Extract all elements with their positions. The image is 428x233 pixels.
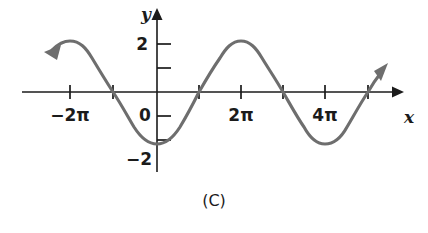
x-tick-label-4pi: 4π (312, 105, 337, 125)
y-axis-arrowhead-icon (152, 8, 163, 20)
curve-left-arrowhead-icon (44, 45, 61, 60)
y-axis-label: y (140, 4, 152, 24)
x-axis-arrowhead-icon (392, 87, 404, 98)
graph-canvas: −2π 0 2π 4π 2 −2 x y (C) (0, 0, 428, 233)
figure-panel-c: −2π 0 2π 4π 2 −2 x y (C) (0, 0, 428, 233)
x-tick-label-2pi: 2π (228, 105, 253, 125)
y-axis (152, 8, 163, 172)
x-axis-label: x (403, 107, 415, 127)
x-tick-label-minus-2pi: −2π (50, 105, 90, 125)
x-tick-label-origin: 0 (139, 105, 151, 125)
y-tick-label-2: 2 (136, 34, 148, 54)
panel-label: (C) (202, 191, 226, 210)
x-axis (22, 87, 404, 98)
y-tick-label-minus-2: −2 (126, 149, 152, 169)
